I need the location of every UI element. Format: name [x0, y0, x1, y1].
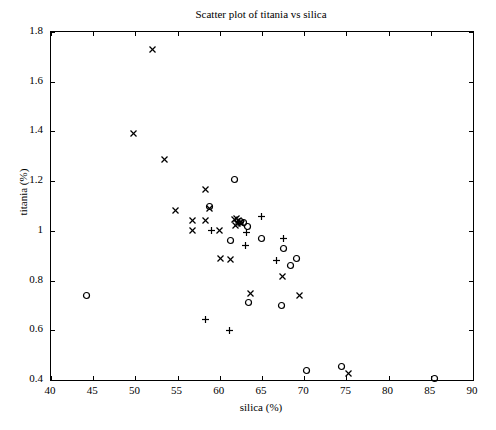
- y-axis-tick: [50, 131, 55, 132]
- data-point-circle-marker: [277, 301, 286, 310]
- x-axis-tick-label: 60: [199, 384, 239, 396]
- x-axis-tick-top: [220, 31, 221, 36]
- x-axis-tick: [346, 376, 347, 381]
- data-point-x-marker: [215, 226, 224, 235]
- data-point-plus-marker: [241, 241, 250, 250]
- data-point-circle-marker: [226, 236, 235, 245]
- x-axis-tick-label: 85: [410, 384, 450, 396]
- data-point-circle-marker: [243, 222, 252, 231]
- data-point-x-marker: [230, 215, 239, 224]
- y-axis-tick: [50, 380, 55, 381]
- data-point-x-marker: [236, 218, 245, 227]
- x-axis-tick: [220, 376, 221, 381]
- y-axis-tick: [50, 181, 55, 182]
- data-point-circle-marker: [244, 298, 253, 307]
- y-axis-tick-right: [469, 330, 474, 331]
- data-point-plus-marker: [257, 212, 266, 221]
- data-point-x-marker: [232, 214, 241, 223]
- y-axis-tick-right: [469, 131, 474, 132]
- x-axis-tick-label: 75: [325, 384, 365, 396]
- y-axis-tick-label: 0.8: [3, 273, 43, 285]
- x-axis-tick: [178, 376, 179, 381]
- x-axis-tick-label: 80: [368, 384, 408, 396]
- data-point-x-marker: [160, 155, 169, 164]
- x-axis-label: silica (%): [50, 401, 472, 413]
- y-axis-tick-label: 0.4: [3, 372, 43, 384]
- x-axis-tick: [431, 376, 432, 381]
- data-point-circle-marker: [230, 175, 239, 184]
- x-axis-tick-label: 65: [241, 384, 281, 396]
- y-axis-tick-right: [469, 281, 474, 282]
- y-axis-tick: [50, 32, 55, 33]
- data-point-circle-marker: [292, 254, 301, 263]
- data-point-x-marker: [201, 216, 210, 225]
- data-point-x-marker: [148, 45, 157, 54]
- data-point-circle-marker: [286, 261, 295, 270]
- data-point-circle-marker: [236, 217, 245, 226]
- y-axis-tick-right: [469, 82, 474, 83]
- data-point-x-marker: [216, 254, 225, 263]
- x-axis-tick-label: 40: [30, 384, 70, 396]
- y-axis-tick-right: [469, 181, 474, 182]
- y-axis-tick-label: 1.4: [3, 123, 43, 135]
- y-axis-tick-label: 0.6: [3, 322, 43, 334]
- data-point-x-marker: [201, 185, 210, 194]
- data-point-circle-marker: [82, 291, 91, 300]
- x-axis-tick: [262, 376, 263, 381]
- data-point-plus-marker: [279, 234, 288, 243]
- x-axis-tick-top: [389, 31, 390, 36]
- data-point-x-marker: [295, 291, 304, 300]
- y-axis-tick: [50, 82, 55, 83]
- data-point-x-marker: [231, 221, 240, 230]
- data-point-x-marker: [188, 216, 197, 225]
- data-point-x-marker: [226, 255, 235, 264]
- data-point-plus-marker: [201, 315, 210, 324]
- x-axis-tick-label: 70: [283, 384, 323, 396]
- data-point-x-marker: [237, 219, 246, 228]
- data-point-circle-marker: [239, 218, 248, 227]
- x-axis-tick-top: [262, 31, 263, 36]
- x-axis-tick: [93, 376, 94, 381]
- y-axis-tick-label: 1.2: [3, 173, 43, 185]
- y-axis-tick-right: [469, 380, 474, 381]
- y-axis-tick: [50, 330, 55, 331]
- data-point-circle-marker: [257, 234, 266, 243]
- data-point-x-marker: [246, 289, 255, 298]
- x-axis-tick-label: 90: [452, 384, 492, 396]
- plot-area: [50, 31, 474, 381]
- data-point-circle-marker: [302, 366, 311, 375]
- data-point-x-marker: [205, 204, 214, 213]
- data-point-circle-marker: [337, 362, 346, 371]
- data-point-x-marker: [278, 272, 287, 281]
- x-axis-tick-top: [431, 31, 432, 36]
- x-axis-tick-top: [93, 31, 94, 36]
- scatter-plot-figure: Scatter plot of titania vs silica silica…: [0, 0, 496, 430]
- data-point-x-marker: [234, 216, 243, 225]
- data-point-plus-marker: [242, 228, 251, 237]
- x-axis-tick-top: [304, 31, 305, 36]
- y-axis-tick-right: [469, 32, 474, 33]
- data-point-plus-marker: [272, 256, 281, 265]
- x-axis-tick-label: 50: [114, 384, 154, 396]
- y-axis-tick-label: 1: [3, 223, 43, 235]
- chart-title: Scatter plot of titania vs silica: [50, 8, 472, 20]
- y-axis-tick: [50, 281, 55, 282]
- data-point-x-marker: [171, 206, 180, 215]
- data-point-x-marker: [344, 369, 353, 378]
- data-point-circle-marker: [205, 202, 214, 211]
- x-axis-tick-top: [346, 31, 347, 36]
- data-point-plus-marker: [207, 226, 216, 235]
- data-point-x-marker: [233, 219, 242, 228]
- x-axis-tick-label: 45: [72, 384, 112, 396]
- x-axis-tick: [389, 376, 390, 381]
- x-axis-tick-label: 55: [157, 384, 197, 396]
- data-point-x-marker: [188, 226, 197, 235]
- y-axis-tick-right: [469, 231, 474, 232]
- data-point-circle-marker: [279, 244, 288, 253]
- y-axis-tick-label: 1.6: [3, 74, 43, 86]
- x-axis-tick: [135, 376, 136, 381]
- data-point-x-marker: [129, 129, 138, 138]
- x-axis-tick-top: [178, 31, 179, 36]
- x-axis-tick: [304, 376, 305, 381]
- data-point-plus-marker: [225, 326, 234, 335]
